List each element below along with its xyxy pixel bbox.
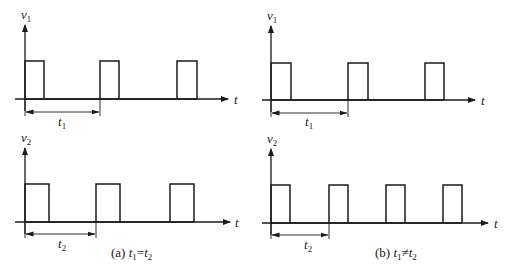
time-axis-label: t: [234, 92, 238, 107]
period-label: t1: [305, 114, 313, 131]
time-axis-label: t: [494, 216, 498, 231]
voltage-axis-label: v1: [21, 7, 31, 24]
time-axis-label: t: [481, 93, 485, 108]
caption-a: (a) t1=t2: [111, 245, 152, 262]
time-axis-label: t: [235, 215, 239, 230]
period-label: t1: [58, 114, 66, 131]
period-label: t2: [304, 237, 312, 254]
pulse-train: [25, 184, 194, 222]
waveform-panel-bottom-right: v2tt2: [262, 131, 498, 254]
caption-b: (b) t1≠t2: [375, 245, 417, 262]
voltage-axis-label: v1: [267, 8, 277, 25]
pulse-train: [25, 61, 197, 99]
pulse-waveform-diagram: v1tt1v2tt2v1tt1v2tt2 (a) t1=t2(b) t1≠t2: [0, 0, 509, 268]
voltage-axis-label: v2: [267, 131, 277, 148]
pulse-train: [271, 63, 444, 100]
period-label: t2: [58, 236, 66, 253]
waveform-panel-bottom-left: v2tt2: [15, 130, 239, 253]
waveform-panel-top-right: v1tt1: [262, 8, 485, 131]
voltage-axis-label: v2: [21, 130, 31, 147]
waveform-panel-top-left: v1tt1: [15, 7, 238, 131]
pulse-train: [271, 185, 462, 223]
